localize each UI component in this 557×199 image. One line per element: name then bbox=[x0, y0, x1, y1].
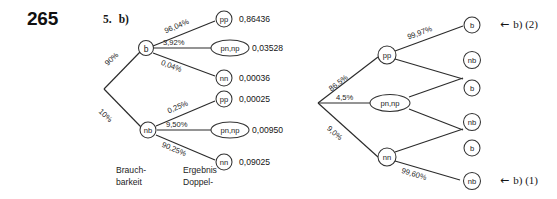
caption-ergebnis-line2: Doppel- bbox=[183, 177, 217, 189]
right-node-pnnp-b-label: b bbox=[470, 84, 474, 93]
left-result-nb-pp: 0,00025 bbox=[239, 94, 270, 104]
right-edge-nn-b bbox=[395, 129, 463, 152]
right-tree: pp pn,np nn b nb b nb b nb bbox=[318, 17, 481, 190]
left-result-nb-pnnp: 0,00950 bbox=[252, 125, 283, 135]
left-edge-pct-nb-pnnp: 9,50% bbox=[166, 120, 188, 129]
right-node-nn-b-label: b bbox=[470, 144, 474, 153]
left-result-b-nn: 0,00036 bbox=[239, 73, 270, 83]
caption-brauchbarkeit-line1: Brauch- bbox=[116, 165, 146, 177]
right-node-pp-label: pp bbox=[383, 51, 391, 60]
annotation-b2: ←b) (2) bbox=[500, 18, 538, 31]
right-node-nn-label: nn bbox=[383, 153, 391, 162]
right-node-pnnp-label: pn,np bbox=[380, 99, 399, 108]
left-arrow-icon: ← bbox=[500, 174, 509, 187]
annotation-b1: ←b) (1) bbox=[500, 174, 538, 187]
right-node-pp-nb-label: nb bbox=[468, 56, 476, 65]
caption-ergebnis-line1: Ergebnis bbox=[183, 165, 217, 177]
caption-ergebnis: Ergebnis Doppel- bbox=[183, 165, 217, 188]
left-node-nb-label: nb bbox=[144, 126, 152, 135]
left-node-nb-pp-label: pp bbox=[220, 95, 228, 104]
worksheet-page: 265 5.b) b nb pp p bbox=[0, 0, 557, 199]
left-result-b-pp: 0,86436 bbox=[239, 14, 270, 24]
right-node-nn-nb-label: nb bbox=[468, 177, 476, 186]
left-arrow-icon: ← bbox=[500, 18, 509, 31]
left-node-b-pnnp-label: pn,np bbox=[220, 44, 239, 53]
left-node-nb-nn-label: nn bbox=[220, 158, 228, 167]
caption-brauchbarkeit: Brauch- barkeit bbox=[116, 165, 146, 188]
annotation-b2-text: b) (2) bbox=[513, 18, 538, 30]
right-edge-pp-nb bbox=[395, 59, 463, 79]
right-node-pp-b-label: b bbox=[470, 21, 474, 30]
right-edge-pct-root-pnnp: 4,5% bbox=[336, 93, 353, 102]
right-node-pnnp-nb-label: nb bbox=[468, 118, 476, 127]
annotation-b1-text: b) (1) bbox=[513, 174, 538, 186]
right-edge-pnnp-b bbox=[409, 78, 463, 97]
left-node-b-nn-label: nn bbox=[220, 74, 228, 83]
left-result-b-pnnp: 0,03528 bbox=[252, 43, 283, 53]
right-edge-pnnp-nb bbox=[409, 109, 463, 130]
left-result-nb-nn: 0,09025 bbox=[239, 157, 270, 167]
caption-brauchbarkeit-line2: barkeit bbox=[116, 177, 146, 189]
left-node-nb-pnnp-label: pn,np bbox=[220, 126, 239, 135]
left-node-b-pp-label: pp bbox=[220, 15, 228, 24]
left-node-b-label: b bbox=[144, 44, 149, 54]
left-edge-pct-b-pnnp: 3,92% bbox=[163, 38, 185, 47]
probability-tree-diagram: b nb pp pn,np nn pp pn,np nn bbox=[0, 0, 557, 199]
